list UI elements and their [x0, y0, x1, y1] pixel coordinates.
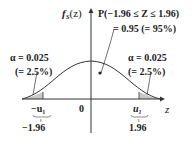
origin-label: 0 — [79, 103, 84, 114]
left-critical-value: −1.96 — [22, 122, 45, 133]
left-alpha-label: α = 0.025 — [10, 52, 49, 63]
x-axis-label: z — [164, 103, 170, 115]
normal-distribution-diagram: fS(z) P(−1.96 ≤ Z ≤ 1.96) = 0.95 (= 95%)… — [0, 0, 194, 144]
right-brace — [131, 115, 148, 117]
left-brace — [33, 115, 51, 117]
x-axis-arrow-icon — [160, 97, 165, 102]
diagram-canvas: fS(z) P(−1.96 ≤ Z ≤ 1.96) = 0.95 (= 95%)… — [0, 0, 194, 144]
right-alpha-label: α = 0.025 — [128, 52, 167, 63]
left-percent-label: (= 2.5%) — [15, 66, 52, 78]
right-percent-label: (= 2.5%) — [128, 66, 165, 78]
left-critical-symbol: −u1 — [31, 103, 45, 115]
probability-line-2: = 0.95 (= 95%) — [113, 23, 176, 35]
right-critical-value: 1.96 — [129, 122, 147, 133]
right-critical-symbol: u1 — [133, 103, 142, 115]
probability-point-marker — [98, 71, 101, 74]
probability-pointer — [101, 29, 114, 73]
probability-line-1: P(−1.96 ≤ Z ≤ 1.96) — [98, 8, 179, 20]
y-axis-label: fS(z) — [62, 7, 82, 21]
y-axis-arrow-icon — [89, 8, 94, 13]
